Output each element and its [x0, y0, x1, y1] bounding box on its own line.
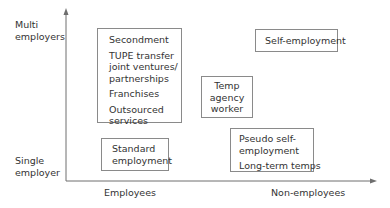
item-temp-agency-worker-line-3: worker — [202, 103, 252, 115]
box-multi-employer-arrangements: Secondment TUPE transfer joint ventures/… — [97, 28, 182, 123]
item-temp-agency-worker-line-2: agency — [202, 92, 252, 104]
item-tupe-transfer-line-2: joint ventures/ — [109, 61, 181, 73]
x-axis-arrow-icon — [370, 179, 377, 184]
item-franchises: Franchises — [109, 88, 181, 100]
y-axis-top-label: Multi employers — [15, 19, 65, 43]
y-axis-top-label-line-2: employers — [15, 31, 65, 43]
y-axis-bottom-label-line-2: employer — [15, 167, 60, 179]
item-pseudo-self-employment-line-1: Pseudo self- — [239, 133, 313, 145]
item-tupe-transfer-line-3: partnerships — [109, 73, 181, 85]
y-axis-bottom-label-line-1: Single — [15, 155, 60, 167]
item-standard-employment-line-2: employment — [112, 155, 168, 167]
item-temp-agency-worker-line-1: Temp — [202, 80, 252, 92]
item-tupe-transfer-line-1: TUPE transfer — [109, 50, 181, 62]
box-temp-agency-worker: Temp agency worker — [201, 76, 253, 118]
item-pseudo-self-employment-line-2: employment — [239, 145, 313, 157]
item-outsourced-services-line-2: services — [109, 115, 181, 127]
box-pseudo-self-employment: Pseudo self- employment Long-term temps — [230, 128, 314, 172]
item-outsourced-services-line-1: Outsourced — [109, 104, 181, 116]
x-axis-left-label: Employees — [104, 187, 156, 199]
item-secondment: Secondment — [109, 34, 181, 46]
y-axis-bottom-label: Single employer — [15, 155, 60, 179]
x-axis-right-label: Non-employees — [271, 187, 345, 199]
y-axis-arrow-icon — [64, 8, 69, 15]
item-long-term-temps: Long-term temps — [239, 160, 313, 172]
y-axis-top-label-line-1: Multi — [15, 19, 65, 31]
item-self-employment: Self-employment — [265, 35, 337, 47]
box-standard-employment: Standard employment — [101, 138, 169, 171]
item-standard-employment-line-1: Standard — [112, 143, 168, 155]
box-self-employment: Self-employment — [255, 29, 338, 52]
